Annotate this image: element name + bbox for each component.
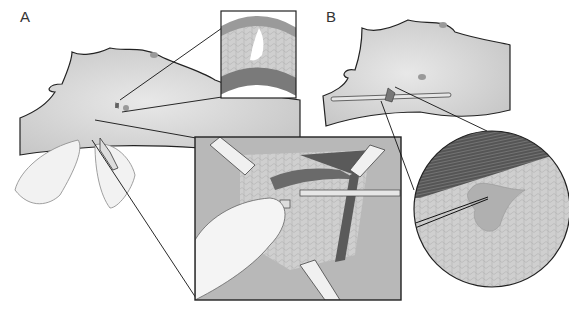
tissue-inset <box>215 11 300 98</box>
patient-body-b <box>323 20 510 126</box>
wound-inset <box>195 137 401 300</box>
magnified-pocket <box>410 128 569 298</box>
illustration <box>0 0 569 309</box>
